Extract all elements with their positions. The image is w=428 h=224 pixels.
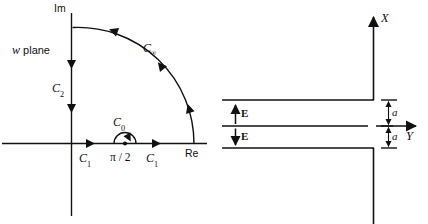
field-label-up: E bbox=[241, 108, 248, 119]
right-panel-group bbox=[222, 17, 416, 224]
contour-c-infinity-base: C bbox=[143, 41, 151, 55]
contour-c-infinity-arc bbox=[73, 27, 195, 143]
contour-c2-arrow-1 bbox=[67, 60, 76, 69]
contour-c1-right-base: C bbox=[146, 151, 154, 165]
pole-marker-dot bbox=[123, 141, 127, 145]
contour-c-infinity-arrow-3 bbox=[183, 103, 194, 114]
contour-c1-right-arrow bbox=[152, 139, 161, 148]
contour-c2-subscript: 2 bbox=[60, 90, 64, 99]
y-axis-label: Y bbox=[406, 130, 413, 143]
w-plane-label-variable: w bbox=[12, 43, 20, 57]
contour-c2-base: C bbox=[52, 81, 60, 95]
figure-root: w plane Im Re C1 C1 C2 C0 C∞ π / 2 X Y E… bbox=[0, 0, 428, 224]
field-label-down: E bbox=[241, 131, 248, 142]
pole-label: π / 2 bbox=[110, 152, 131, 164]
contour-c1-right-subscript: 1 bbox=[154, 160, 158, 169]
figure-vector-layer bbox=[0, 0, 428, 224]
contour-c1-right-label: C1 bbox=[146, 152, 158, 168]
contour-c-infinity-subscript: ∞ bbox=[151, 48, 156, 57]
w-plane-label-suffix: plane bbox=[20, 44, 50, 56]
contour-c1-left-subscript: 1 bbox=[87, 160, 91, 169]
contour-c2-arrow-2 bbox=[67, 104, 76, 113]
contour-c1-left-base: C bbox=[79, 151, 87, 165]
contour-c1-left-arrow bbox=[86, 139, 95, 148]
w-plane-label: w plane bbox=[12, 44, 50, 56]
contour-c0-label: C0 bbox=[113, 116, 125, 132]
contour-c2-label: C2 bbox=[52, 82, 64, 98]
contour-c0-subscript: 0 bbox=[121, 124, 125, 133]
dimension-label-lower-a: a bbox=[392, 131, 398, 142]
x-axis-label: X bbox=[381, 12, 389, 25]
contour-c1-left-label: C1 bbox=[79, 152, 91, 168]
contour-c0-base: C bbox=[113, 115, 121, 129]
contour-c-infinity-label: C∞ bbox=[143, 42, 156, 54]
imaginary-axis-label: Im bbox=[54, 3, 66, 14]
dimension-label-upper-a: a bbox=[392, 107, 398, 118]
real-axis-label: Re bbox=[185, 148, 198, 159]
